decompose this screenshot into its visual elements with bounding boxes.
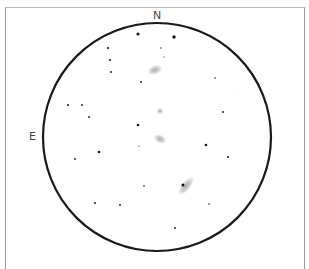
star — [227, 156, 229, 158]
galaxies-layer — [146, 63, 198, 199]
star — [98, 151, 101, 154]
galaxy-center — [152, 132, 168, 146]
star — [88, 116, 90, 118]
star — [136, 32, 139, 35]
star — [81, 104, 83, 106]
star — [143, 185, 145, 187]
galaxy-core — [182, 184, 185, 187]
star — [163, 56, 164, 57]
star — [208, 203, 210, 205]
star — [236, 168, 237, 169]
star — [67, 104, 69, 106]
galaxy-north — [146, 63, 164, 78]
star — [137, 124, 140, 127]
star — [174, 227, 176, 229]
star — [119, 204, 121, 206]
star — [74, 158, 76, 160]
star — [160, 47, 161, 48]
east-label: E — [29, 131, 36, 142]
star — [107, 47, 109, 49]
stars-layer — [67, 32, 239, 229]
star — [138, 145, 139, 146]
galaxy-small-center — [157, 108, 164, 115]
star — [94, 202, 96, 204]
star — [109, 59, 111, 61]
north-label: N — [153, 10, 161, 21]
star — [172, 35, 175, 38]
star — [222, 111, 224, 113]
star — [238, 93, 239, 94]
star — [110, 71, 112, 73]
star — [205, 144, 208, 147]
star — [214, 77, 216, 79]
star — [140, 81, 142, 83]
galaxy-south-bright — [174, 174, 197, 199]
